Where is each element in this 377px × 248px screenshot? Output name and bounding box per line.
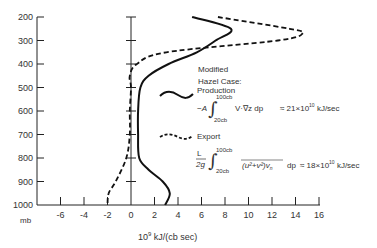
export-lower-limit: 20cb xyxy=(216,168,230,174)
export-dp: dp xyxy=(287,161,296,170)
legend: Modified Hazel Case: Production −A ∫ 100… xyxy=(160,65,360,174)
y-axis: 2003004005006007008009001000 xyxy=(13,12,44,210)
export-frac-num: L xyxy=(197,149,202,158)
production-result: ≈ 21×1010 kJ/sec xyxy=(280,102,340,113)
legend-title-line2: Hazel Case: xyxy=(198,77,242,86)
legend-export-label: Export xyxy=(197,132,221,141)
x-tick-label: 8 xyxy=(222,210,227,220)
x-axis-title: 109 kJ/(cb sec) xyxy=(138,231,197,242)
x-tick-label: -6 xyxy=(56,210,64,220)
x-tick-label: 6 xyxy=(199,210,204,220)
x-axis: -6-4-20246810121416 xyxy=(37,197,324,220)
x-tick-label: 0 xyxy=(128,210,133,220)
y-tick-label: 400 xyxy=(18,59,33,69)
y-unit-label: mb xyxy=(20,216,32,225)
x-tick-label: 4 xyxy=(175,210,180,220)
x-tick-label: -2 xyxy=(103,210,111,220)
y-tick-label: 700 xyxy=(18,130,33,140)
y-tick-label: 800 xyxy=(18,153,33,163)
export-legend-swatch xyxy=(160,134,193,138)
y-tick-label: 1000 xyxy=(13,200,33,210)
y-tick-label: 900 xyxy=(18,177,33,187)
production-prefix: −A xyxy=(197,104,207,113)
integral-sign-icon: ∫ xyxy=(208,98,218,119)
x-tick-label: 12 xyxy=(267,210,277,220)
x-tick-label: 16 xyxy=(314,210,324,220)
x-tick-label: 14 xyxy=(290,210,300,220)
production-curve xyxy=(138,17,232,205)
export-upper-limit: 100cb xyxy=(216,147,233,153)
y-tick-label: 500 xyxy=(18,83,33,93)
y-tick-label: 300 xyxy=(18,36,33,46)
production-integrand: V·∇z dp xyxy=(235,104,264,113)
production-upper-limit: 100cb xyxy=(216,94,233,100)
production-lower-limit: 20cb xyxy=(214,117,228,123)
export-integrand: (u²+v²)vn xyxy=(242,161,273,171)
x-tick-label: -4 xyxy=(80,210,88,220)
export-frac-den: 2g xyxy=(195,160,205,169)
production-legend-swatch xyxy=(160,92,193,98)
y-tick-label: 600 xyxy=(18,106,33,116)
zero-line xyxy=(126,17,136,205)
export-result: ≈ 18×1010 kJ/sec xyxy=(300,159,360,170)
energy-profile-chart: 2003004005006007008009001000 -6-4-202468… xyxy=(0,0,377,248)
x-tick-label: 10 xyxy=(243,210,253,220)
legend-title-line1: Modified xyxy=(198,65,228,74)
y-tick-label: 200 xyxy=(18,12,33,22)
x-tick-label: 2 xyxy=(152,210,157,220)
